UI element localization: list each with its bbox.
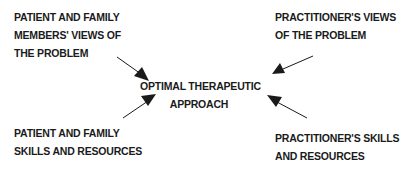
- arrows-layer: [0, 0, 410, 170]
- arrow-bottom-right-icon: [267, 95, 307, 118]
- arrow-top-left-icon: [117, 57, 149, 81]
- arrow-top-right-icon: [272, 56, 313, 74]
- arrow-bottom-left-icon: [123, 94, 156, 118]
